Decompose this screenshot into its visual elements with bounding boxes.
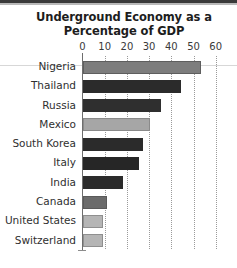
bar-mexico xyxy=(83,118,150,131)
bar-united-states xyxy=(83,215,103,228)
category-label-south-korea: South Korea xyxy=(12,138,76,149)
category-label-india: India xyxy=(50,177,76,188)
bar-india xyxy=(83,176,123,189)
bar-russia xyxy=(83,99,161,112)
x-tick-label-30: 30 xyxy=(137,41,161,52)
x-tick-label-60: 60 xyxy=(204,41,228,52)
bar-canada xyxy=(83,196,107,209)
category-label-nigeria: Nigeria xyxy=(38,61,76,72)
bar-south-korea xyxy=(83,138,143,151)
bar-switzerland xyxy=(83,234,103,247)
x-tick-label-40: 40 xyxy=(159,41,183,52)
x-tick-label-20: 20 xyxy=(115,41,139,52)
bar-row: United States xyxy=(0,212,237,231)
bar-rows: NigeriaThailandRussiaMexicoSouth KoreaIt… xyxy=(0,58,237,251)
bar-row: Italy xyxy=(0,154,237,173)
plot-area: 0102030405060 NigeriaThailandRussiaMexic… xyxy=(0,0,237,268)
bar-italy xyxy=(83,157,139,170)
category-label-switzerland: Switzerland xyxy=(15,235,76,246)
bar-thailand xyxy=(83,80,181,93)
x-tick-label-10: 10 xyxy=(93,41,117,52)
bar-row: Russia xyxy=(0,97,237,116)
category-label-thailand: Thailand xyxy=(31,80,76,91)
bar-row: India xyxy=(0,174,237,193)
category-label-italy: Italy xyxy=(53,157,76,168)
x-tick-label-50: 50 xyxy=(182,41,206,52)
bar-row: Nigeria xyxy=(0,58,237,77)
x-tick-label-0: 0 xyxy=(71,41,95,52)
bar-row: South Korea xyxy=(0,135,237,154)
bar-nigeria xyxy=(83,61,201,74)
bar-row: Switzerland xyxy=(0,232,237,251)
category-label-mexico: Mexico xyxy=(39,119,76,130)
chart-container: Underground Economy as a Percentage of G… xyxy=(0,0,237,268)
bar-row: Canada xyxy=(0,193,237,212)
x-axis-tick-labels: 0102030405060 xyxy=(0,41,237,53)
bar-row: Mexico xyxy=(0,116,237,135)
bar-row: Thailand xyxy=(0,77,237,96)
category-label-canada: Canada xyxy=(36,196,76,207)
category-label-united-states: United States xyxy=(5,215,76,226)
category-label-russia: Russia xyxy=(42,100,76,111)
bottom-crop-band xyxy=(0,262,237,268)
